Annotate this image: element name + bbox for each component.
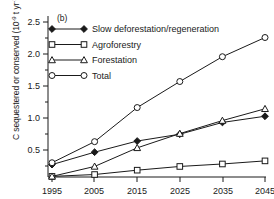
data-point [262, 105, 269, 111]
legend-label: Slow deforestation/regeneration [92, 24, 219, 34]
data-point [177, 79, 183, 85]
data-point [177, 164, 183, 170]
data-series-layer [49, 35, 269, 180]
data-point [219, 54, 225, 60]
legend-marker-open-circle-icon [81, 73, 87, 79]
legend-item-2[interactable]: Forestation [49, 55, 137, 65]
chart-legend: Slow deforestation/regenerationAgrofores… [49, 24, 219, 81]
y-tick-label-2: 1.5 [27, 81, 40, 91]
panel-label: (b) [57, 13, 68, 23]
legend-label: Forestation [92, 55, 137, 65]
legend-marker-open-square-icon [81, 42, 87, 48]
figure-panel-b: C sequestered or conserved (10-9 t yr-1)… [0, 0, 274, 199]
series-3 [49, 35, 268, 166]
data-point [91, 149, 98, 156]
y-tick-label-0: 0.5 [27, 145, 40, 155]
legend-marker-open-circle-icon [49, 73, 55, 79]
data-point [134, 138, 141, 145]
legend-label: Total [92, 71, 111, 81]
x-tick-label-0: 1995 [42, 186, 62, 196]
data-point [92, 172, 98, 178]
x-tick-label-4: 2035 [213, 186, 233, 196]
y-tick-label-4: 2.5 [27, 17, 40, 27]
x-axis-ticks [52, 177, 265, 182]
legend-item-0[interactable]: Slow deforestation/regeneration [49, 24, 219, 34]
legend-label: Agroforestry [92, 40, 142, 50]
x-tick-label-1: 2005 [84, 186, 104, 196]
y-axis-major-ticks [43, 22, 48, 150]
x-tick-label-3: 2025 [170, 186, 190, 196]
x-axis-tick-labels: 1995 2005 2015 2025 2035 2045 [42, 186, 274, 196]
legend-marker-filled-diamond-icon [81, 26, 88, 33]
y-tick-label-1: 1.0 [27, 113, 40, 123]
data-point [92, 139, 98, 145]
data-point [134, 105, 140, 111]
legend-marker-open-square-icon [49, 42, 55, 48]
data-point [49, 160, 55, 166]
legend-marker-filled-diamond-icon [49, 26, 56, 33]
data-point [91, 163, 98, 169]
y-axis-tick-labels: 2.5 2.0 1.5 1.0 0.5 [27, 17, 40, 155]
series-1 [49, 158, 268, 179]
data-point [220, 161, 226, 167]
data-point [262, 158, 268, 164]
data-point [262, 35, 268, 41]
legend-item-3[interactable]: Total [49, 71, 111, 81]
x-tick-label-5: 2045 [255, 186, 274, 196]
legend-item-1[interactable]: Agroforestry [49, 40, 141, 50]
y-tick-label-3: 2.0 [27, 49, 40, 59]
chart-canvas: 2.5 2.0 1.5 1.0 0.5 1995 2005 2015 2025 … [0, 0, 274, 199]
data-point [134, 167, 140, 173]
x-tick-label-2: 2015 [127, 186, 147, 196]
data-point [262, 113, 269, 120]
